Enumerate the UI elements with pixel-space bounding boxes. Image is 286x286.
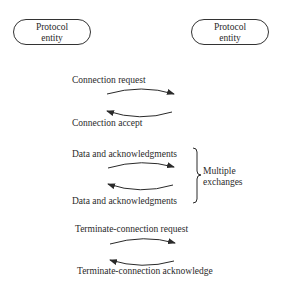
arrow-left-icon [110, 260, 174, 265]
arrow-left-icon [108, 184, 173, 190]
message-arrows [0, 0, 286, 286]
curly-brace-icon [193, 148, 201, 203]
arrow-left-icon [107, 111, 172, 117]
arrow-right-icon [107, 89, 174, 94]
arrow-right-icon [110, 239, 175, 244]
arrow-right-icon [108, 163, 174, 168]
